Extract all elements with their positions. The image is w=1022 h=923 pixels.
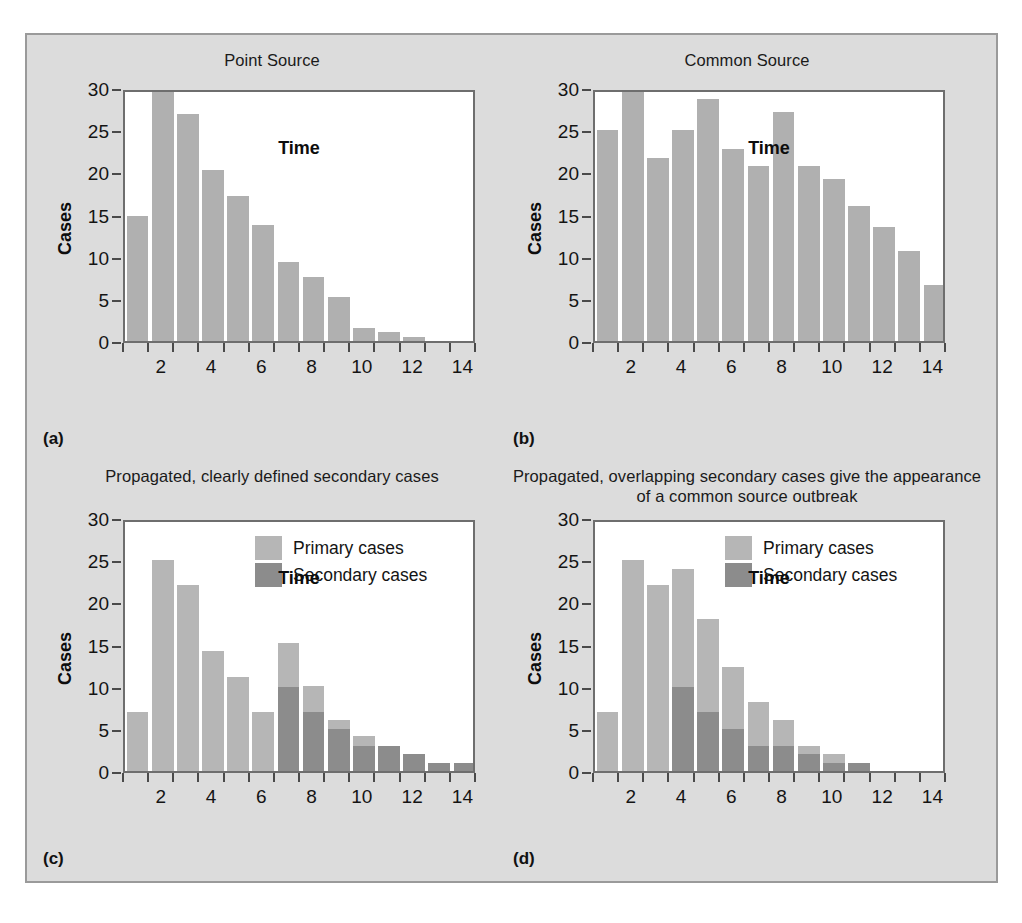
x-tick <box>147 343 149 352</box>
y-tick <box>582 646 591 648</box>
bar-6 <box>722 667 744 771</box>
x-tick <box>474 773 476 782</box>
x-tick <box>818 773 820 782</box>
bar-segment-primary <box>202 651 224 771</box>
y-tick-label: 15 <box>88 636 109 658</box>
panel-a-label: (a) <box>43 429 64 449</box>
y-tick-label: 20 <box>558 593 579 615</box>
x-tick <box>197 773 199 782</box>
y-tick-label: 0 <box>568 332 579 354</box>
x-tick-label: 10 <box>821 356 842 378</box>
panel-d-x-axis-title: Time <box>593 568 945 589</box>
x-tick <box>424 773 426 782</box>
y-tick-label: 0 <box>98 762 109 784</box>
panel-c-y-axis: 051015202530 <box>121 520 123 773</box>
bar-segment-primary <box>353 736 375 745</box>
panel-a: Point Source 051015202530 2468101214 Cas… <box>37 40 507 455</box>
x-tick <box>449 343 451 352</box>
legend-label-primary: Primary cases <box>763 538 874 559</box>
bar-12 <box>403 754 425 771</box>
panel-d-label: (d) <box>513 849 535 869</box>
x-tick-label: 8 <box>776 356 787 378</box>
bar-2 <box>622 560 644 771</box>
x-tick <box>323 343 325 352</box>
bar-13 <box>898 251 920 341</box>
bar-3 <box>647 585 669 771</box>
panel-d-title: Propagated, overlapping secondary cases … <box>507 466 987 506</box>
x-tick <box>843 773 845 782</box>
y-tick-label: 25 <box>558 121 579 143</box>
bar-8 <box>303 686 325 771</box>
bar-segment-primary <box>252 712 274 771</box>
legend-swatch-primary-icon <box>255 536 282 560</box>
x-tick-label: 14 <box>922 786 943 808</box>
bar-9 <box>798 746 820 771</box>
bar-9 <box>798 166 820 341</box>
x-tick <box>592 773 594 782</box>
bar-5 <box>697 99 719 341</box>
x-tick <box>449 773 451 782</box>
y-tick <box>582 688 591 690</box>
bar-13 <box>428 763 450 771</box>
y-tick-label: 15 <box>558 206 579 228</box>
y-tick <box>582 561 591 563</box>
x-tick <box>617 343 619 352</box>
x-tick-label: 12 <box>402 356 423 378</box>
y-tick-label: 10 <box>88 678 109 700</box>
bar-5 <box>227 677 249 771</box>
x-tick <box>693 343 695 352</box>
bar-8 <box>303 277 325 341</box>
x-tick <box>869 773 871 782</box>
x-tick <box>223 773 225 782</box>
x-tick <box>122 773 124 782</box>
legend-item-primary: Primary cases <box>255 536 427 560</box>
x-tick-label: 14 <box>922 356 943 378</box>
panel-d-x-axis: 2468101214 <box>593 773 945 775</box>
x-tick <box>147 773 149 782</box>
bar-6 <box>252 712 274 771</box>
bar-segment-primary <box>152 560 174 771</box>
bar-9 <box>328 720 350 771</box>
bar-6 <box>722 149 744 341</box>
y-tick-label: 30 <box>558 79 579 101</box>
y-tick-label: 25 <box>88 121 109 143</box>
panel-b-plot-area <box>593 90 945 343</box>
panel-b-y-axis: 051015202530 <box>591 90 593 343</box>
bar-4 <box>202 170 224 341</box>
x-tick-label: 8 <box>776 786 787 808</box>
bar-segment-primary <box>597 712 619 771</box>
bar-1 <box>597 130 619 341</box>
y-tick <box>582 603 591 605</box>
bar-segment-primary <box>773 720 795 745</box>
bar-segment-secondary <box>798 754 820 771</box>
bar-4 <box>672 569 694 771</box>
x-tick-label: 12 <box>402 786 423 808</box>
y-tick-label: 5 <box>568 290 579 312</box>
panel-b-y-axis-title: Cases <box>525 202 546 255</box>
x-tick-label: 6 <box>726 356 737 378</box>
y-tick-label: 10 <box>558 678 579 700</box>
x-tick <box>793 343 795 352</box>
bar-10 <box>823 754 845 771</box>
bar-segment-primary <box>227 677 249 771</box>
panel-b-bars <box>595 92 943 341</box>
panel-c-plot-area: Primary cases Secondary cases <box>123 520 475 773</box>
x-tick-label: 14 <box>452 786 473 808</box>
bar-segment-secondary <box>428 763 450 771</box>
panel-a-bars <box>125 92 473 341</box>
y-tick <box>582 89 591 91</box>
legend-item-primary: Primary cases <box>725 536 897 560</box>
x-tick <box>642 343 644 352</box>
y-tick <box>112 131 121 133</box>
y-tick <box>112 89 121 91</box>
y-tick <box>582 730 591 732</box>
x-tick-label: 2 <box>625 786 636 808</box>
x-tick <box>399 343 401 352</box>
y-tick <box>582 258 591 260</box>
y-tick-label: 30 <box>88 79 109 101</box>
y-tick-label: 0 <box>568 762 579 784</box>
bar-12 <box>873 227 895 341</box>
legend-swatch-primary-icon <box>725 536 752 560</box>
x-tick <box>474 343 476 352</box>
bar-segment-primary <box>798 746 820 754</box>
